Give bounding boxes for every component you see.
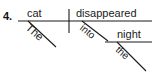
sentence-diagram: 4. cat disappeared night The into the bbox=[0, 0, 157, 77]
word-object-of-preposition: night bbox=[117, 29, 141, 40]
word-verb: disappeared bbox=[76, 8, 137, 19]
word-subject: cat bbox=[27, 8, 42, 19]
